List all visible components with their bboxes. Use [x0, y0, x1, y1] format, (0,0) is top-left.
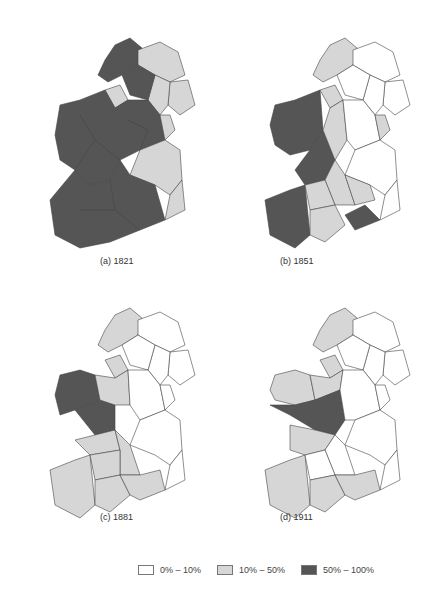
panel-caption: (a) 1821: [100, 256, 134, 266]
panel-caption: (d) 1911: [280, 512, 313, 522]
map-panel-1821: (a) 1821: [20, 20, 220, 270]
ireland-map-1911: [235, 290, 435, 520]
panel-caption: (b) 1851: [280, 256, 314, 266]
map-panel-1881: (c) 1881: [20, 290, 220, 540]
legend-label: 50% – 100%: [323, 565, 374, 575]
ireland-map-1851: [235, 20, 435, 250]
map-panel-1911: (d) 1911: [235, 290, 435, 540]
legend-item-low: 0% – 10%: [138, 565, 201, 575]
ireland-map-1881: [20, 290, 220, 520]
legend-label: 0% – 10%: [160, 565, 201, 575]
legend-label: 10% – 50%: [239, 565, 285, 575]
legend: 0% – 10% 10% – 50% 50% – 100%: [138, 565, 384, 575]
legend-swatch-low: [138, 565, 154, 575]
map-panel-1851: (b) 1851: [235, 20, 435, 270]
legend-item-mid: 10% – 50%: [217, 565, 285, 575]
legend-item-high: 50% – 100%: [301, 565, 374, 575]
legend-swatch-mid: [217, 565, 233, 575]
ireland-map-1821: [20, 20, 220, 250]
panel-caption: (c) 1881: [100, 512, 133, 522]
legend-swatch-high: [301, 565, 317, 575]
